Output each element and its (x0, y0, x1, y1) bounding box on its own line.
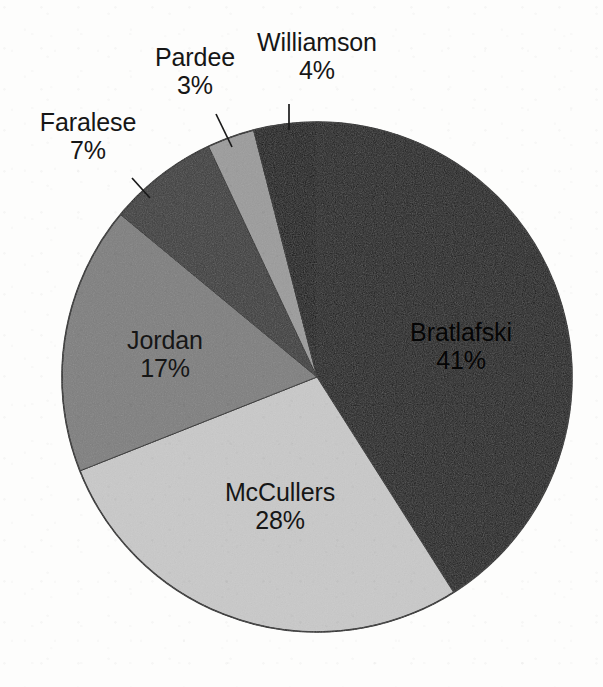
pie-label-faralese-name: Faralese (18, 108, 158, 136)
pie-label-bratlafski-name: Bratlafski (381, 318, 541, 346)
pie-label-pardee-name: Pardee (139, 43, 251, 71)
pie-chart-figure: Williamson 4% Pardee 3% Faralese 7% Jord… (0, 0, 603, 687)
pie-label-bratlafski: Bratlafski 41% (381, 318, 541, 374)
pie-label-faralese: Faralese 7% (18, 108, 158, 164)
pie-label-williamson-name: Williamson (247, 28, 387, 56)
pie-label-williamson: Williamson 4% (247, 28, 387, 84)
pie-label-bratlafski-value: 41% (381, 346, 541, 374)
pie-label-williamson-value: 4% (247, 56, 387, 84)
pie-label-mccullers: McCullers 28% (190, 478, 370, 534)
pie-label-jordan: Jordan 17% (104, 326, 226, 382)
pie-label-jordan-value: 17% (104, 354, 226, 382)
pie-label-pardee: Pardee 3% (139, 43, 251, 99)
pie-label-faralese-value: 7% (18, 136, 158, 164)
pie-label-mccullers-value: 28% (190, 506, 370, 534)
pie-label-pardee-value: 3% (139, 71, 251, 99)
pie-label-jordan-name: Jordan (104, 326, 226, 354)
pie-label-mccullers-name: McCullers (190, 478, 370, 506)
